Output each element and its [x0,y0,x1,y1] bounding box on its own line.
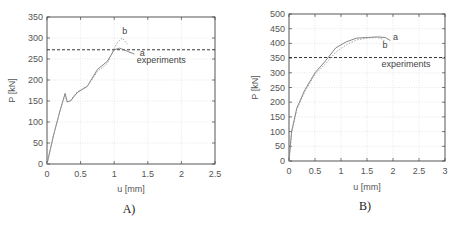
y-tick-label: 0 [38,159,43,169]
annotation-experiments: experiments [137,55,187,65]
x-axis-label: u [mm] [353,182,381,192]
x-tick-label: 2 [390,166,395,176]
x-tick-label: 2 [179,169,184,179]
y-tick-label: 200 [28,75,43,85]
chart-b: 00.511.522.53050100150200250300350400450… [250,9,448,213]
annotation-a: a [393,32,398,42]
x-tick-label: 1.5 [361,166,374,176]
x-tick-label: 0.5 [309,166,322,176]
x-tick-label: 3 [442,166,447,176]
y-axis-label: P [kN] [7,78,17,102]
y-tick-label: 50 [275,141,285,151]
x-tick-label: 0 [44,169,49,179]
series-a [289,37,390,161]
y-axis-label: P [kN] [250,75,260,99]
x-tick-label: 1 [112,169,117,179]
series-a [47,48,134,164]
x-tick-label: 2.5 [209,169,222,179]
panel-label: B) [359,199,371,213]
y-tick-label: 300 [28,33,43,43]
y-tick-label: 250 [28,54,43,64]
y-tick-label: 100 [28,117,43,127]
y-tick-label: 150 [28,96,43,106]
plot-frame [47,17,215,164]
y-tick-label: 100 [270,127,285,137]
y-tick-label: 300 [270,68,285,78]
y-tick-label: 150 [270,112,285,122]
y-tick-label: 0 [280,156,285,166]
x-tick-label: 0 [286,166,291,176]
y-tick-label: 450 [270,24,285,34]
y-tick-label: 400 [270,38,285,48]
annotation-b: b [383,40,388,50]
figure-canvas: 00.511.522.5050100150200250300350abexper… [0,0,457,228]
y-tick-label: 200 [270,97,285,107]
y-tick-label: 50 [33,138,43,148]
y-tick-label: 350 [28,12,43,22]
panel-label: A) [123,202,136,216]
x-tick-label: 0.5 [74,169,87,179]
x-axis-label: u [mm] [117,184,145,194]
y-tick-label: 350 [270,53,285,63]
x-tick-label: 1.5 [142,169,155,179]
series-b [289,38,385,162]
annotation-b: b [122,26,127,36]
x-tick-label: 2.5 [413,166,426,176]
annotation-experiments: experiments [381,59,431,69]
y-tick-label: 500 [270,9,285,19]
chart-a: 00.511.522.5050100150200250300350abexper… [7,12,221,216]
y-tick-label: 250 [270,83,285,93]
x-tick-label: 1 [338,166,343,176]
